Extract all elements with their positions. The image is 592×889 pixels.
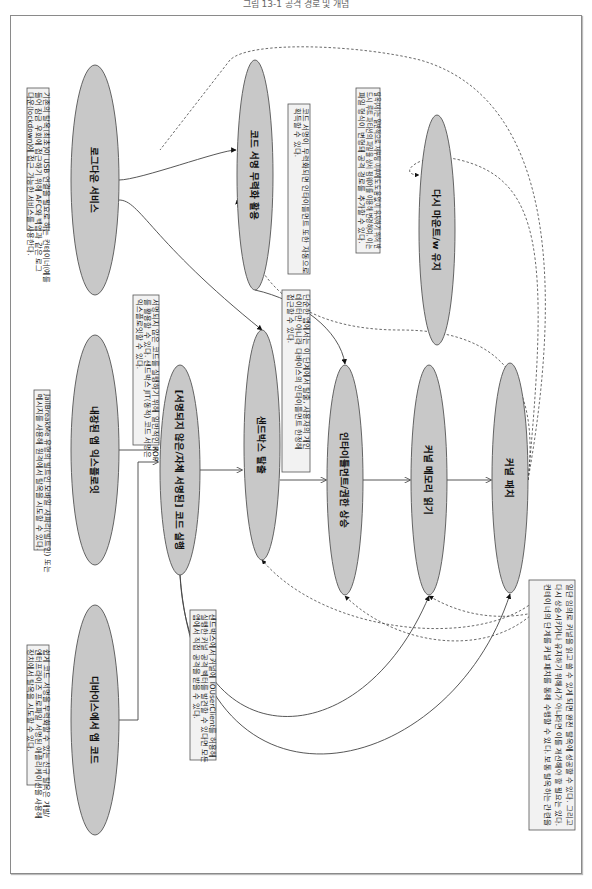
node-builtin-app-exploit: 내장된 앱 익스플로잇 [71,335,119,565]
note-line: 다운(lockdown)에 접근 가능한 서비스를 사용한다. [26,92,35,256]
note-line: 일단 임의로 커널을 읽고 쓸 수 있게 되면 완전 탈옥에 성공할 수 있다.… [565,584,574,826]
note-remount: 탈옥(재)는 일반적으로 재부팅 이후에도 도움 없이 유지하기 위해 반 드시… [356,88,382,253]
note-line: 획득할 수 있다. [293,108,302,157]
note-entitlement: 단순한 앱에서는 이 단계에서 탈출, 사용자의 개인 데이터만 아니라 다바이… [282,290,311,472]
node-lockdown-service: 로그다운 서비스 [71,65,119,295]
note-codesign: 코드 서명이 무력화되면 인타이틀먼트 또한 자동으로 획득할 수 있다. [288,104,310,274]
attack-path-diagram: 로그다운 서비스 내장된 앱 익스플로잇 디바이스에서 앱 코드 [서명되지 않… [0,0,592,889]
node-app-code-on-device: 디바이스에서 앱 코드 [71,605,119,835]
note-line: 앱에서 직접 공격을 받을 수 있다. [192,614,201,719]
node-label: 로그다운 서비스 [89,147,100,213]
edge-appcode-to-unsigned [119,462,158,720]
node-label: 코드 서명 무력화 활용 [249,130,260,221]
edge-unsigned-to-kernelpatch [180,575,510,754]
node-entitlement-escalation: 인타이틀먼트/권한 상승 [327,365,363,595]
node-label: 디바이스에서 앱 코드 [89,676,100,764]
note-line: 다시 상승시키거나 유지하기 위해서가 아니라면 이를 개선해야 할 필요는 있… [554,584,563,826]
edge-lockdown-to-codesign [119,150,236,180]
note-line: 접근할 수 있다. [286,294,295,343]
node-kernel-patch: 커널 패치 [492,363,528,593]
note-builtin-app: JailBreakMe 유형의 빌트인 모바일 사파리(빌트인) 또는 메시지를… [34,390,52,573]
note-line: 익스플로잇할 수 있다. [135,299,144,369]
node-label: 커널 메모리 읽기 [423,445,434,515]
note-line: 파일 형식이 변형돼 공격 경로를 추가할 수 있다. [357,92,366,244]
note-line: 컨테이너의 단계를 커널 패치를 통해 수행할 수 있다. 보통 탈옥하는 관련… [543,584,552,826]
node-label: 샌드박스 탈출 [256,416,267,473]
note-lockdown: 기존의 탈옥(최초)이 USB 연결을 필요로 하는 컨테이너(예를 들어 잠금… [26,88,51,283]
node-kernel-memory-read: 커널 메모리 읽기 [411,365,447,595]
node-sandbox-escape: 샌드박스 탈출 [244,330,280,560]
note-line: 장치에서 탈옥을 시도할 수 있다. [26,649,35,752]
node-label: [서명되지 않은/자체 서명된] 코드 실행 [174,390,185,550]
note-sandbox: 샌드박스에서 커널에 IOUserClient를 허용해 실행한 커널 공격 벡… [190,610,217,763]
note-kernel-patch: 일단 임의로 커널을 읽고 쓸 수 있게 되면 완전 탈옥에 성공할 수 있다.… [529,580,575,830]
node-label: 내장된 앱 익스플로잇 [89,406,100,494]
node-label: 커널 패치 [504,458,515,497]
edge-patch-to-codesign [237,200,530,480]
node-codesign-bypass: 코드 서명 무력화 활용 [237,60,273,290]
node-label: 인타이틀먼트/권한 상승 [339,432,350,529]
node-label: 다시 마운트/w 유지 [431,189,442,271]
edge-patch-to-entitlement [345,596,545,641]
node-remount-persist: 다시 마운트/w 유지 [419,115,455,345]
note-app-code: 쉽게 코드 서명을 무력화할 수 있는 신규 탈옥은 개발/ 엔터프라이즈 프로… [26,645,51,819]
note-line: 메시지를 사용해 원격에서 탈옥을 시도할 수 있다. [35,394,44,550]
note-unsigned-code: 서명되지 않은 코드를 실행하기 위해 일반적인 ROP 를 활용할 수 있다.… [133,295,160,462]
node-unsigned-code-exec: [서명되지 않은/자체 서명된] 코드 실행 [160,365,200,575]
